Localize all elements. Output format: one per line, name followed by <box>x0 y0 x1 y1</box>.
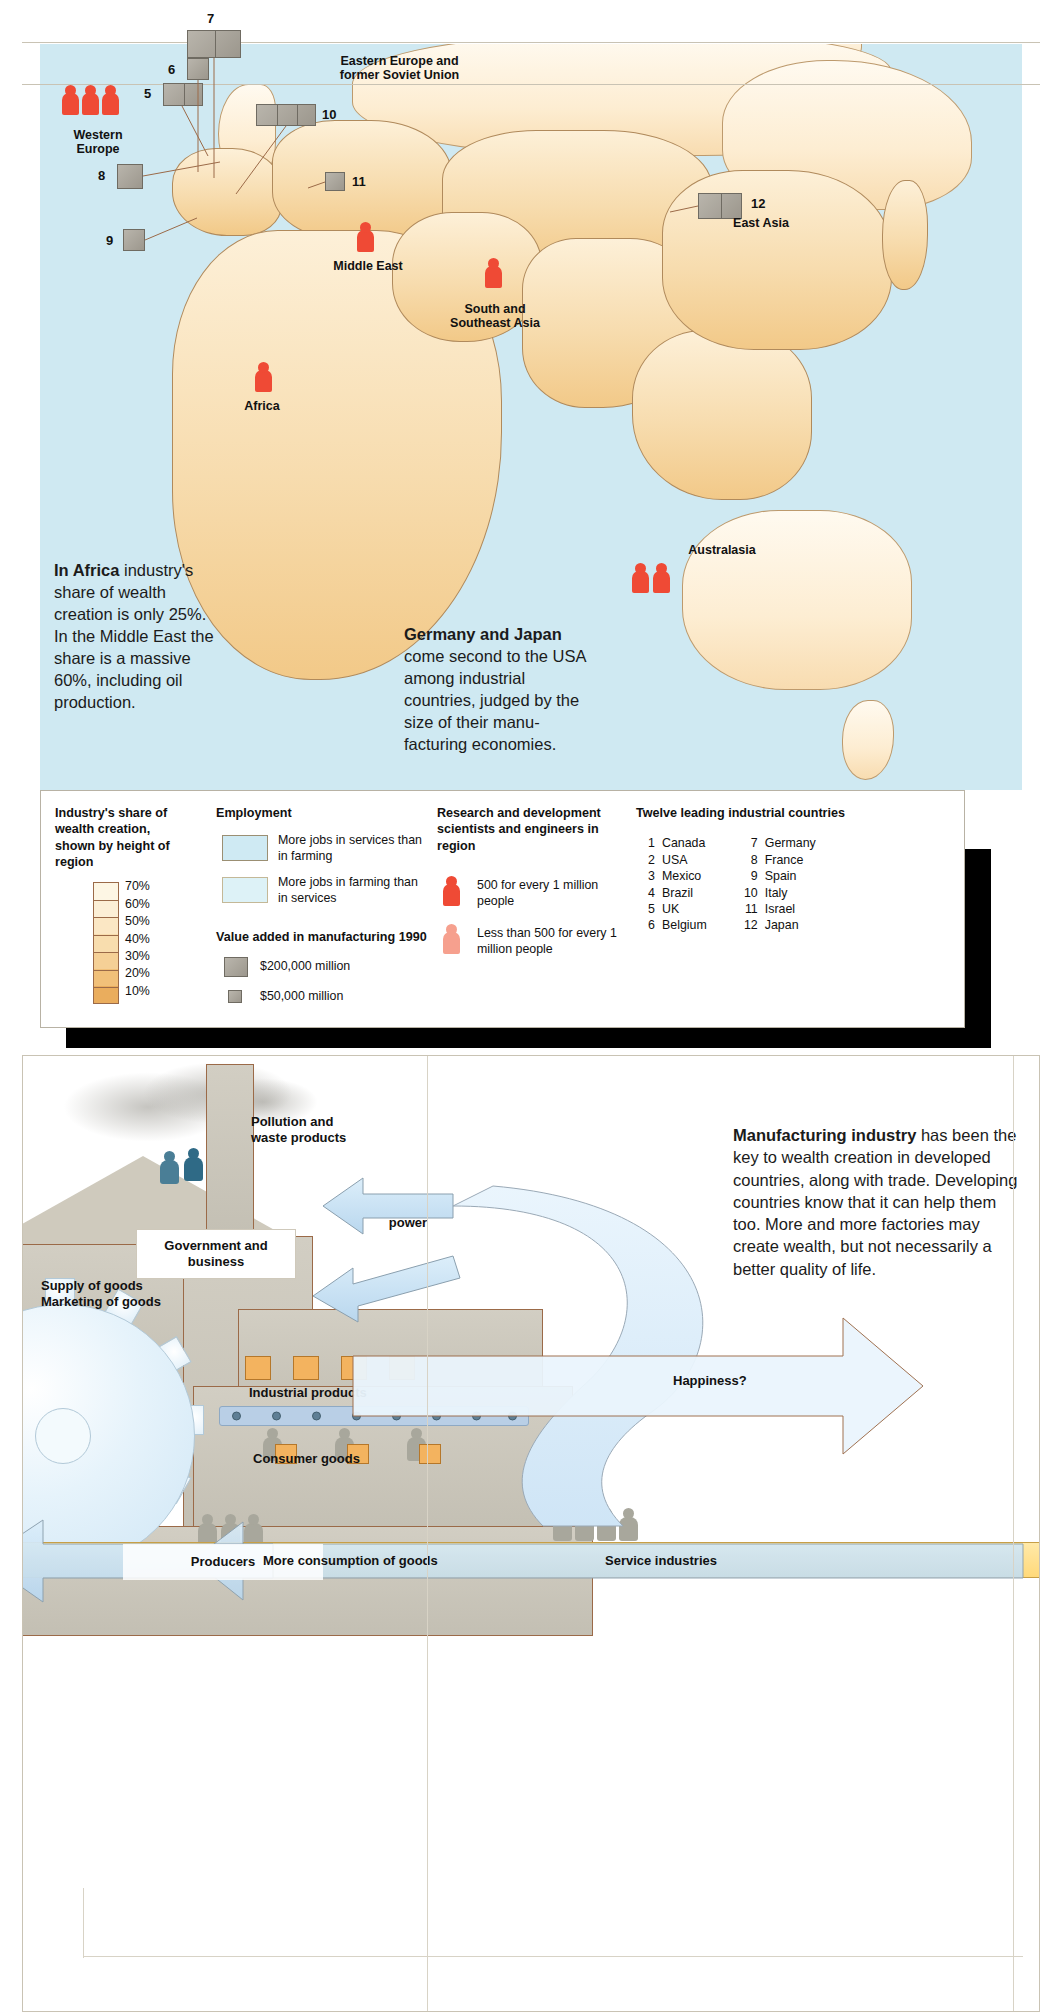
germany-japan-callout-lead: Germany and Japan <box>404 625 562 643</box>
country-name: Japan <box>765 918 799 932</box>
country-rank: 5 <box>636 901 655 917</box>
legend-countries-title: Twelve leading industrial countries <box>636 805 926 821</box>
legend-countries-column: Twelve leading industrial countries 1Can… <box>636 805 926 934</box>
person-icon-red <box>102 85 119 115</box>
panel-vertical-divider <box>427 1056 428 2011</box>
share-scale-bar <box>93 882 119 1004</box>
people-group-australasia <box>632 563 682 595</box>
legend-box: Industry's share of wealth creation, sho… <box>40 790 965 1028</box>
scale-tick: 40% <box>125 931 150 948</box>
legend-employment-item: More jobs in services than in farming <box>278 833 428 865</box>
gear-wheel <box>22 1286 213 1586</box>
marker-number-5: 5 <box>144 86 151 101</box>
manufacturing-paragraph-lead: Manufacturing industry <box>733 1126 916 1144</box>
country-rank: 1 <box>636 835 655 851</box>
country-row: 7Germany <box>739 835 816 851</box>
scale-tick: 10% <box>125 983 150 1000</box>
government-business-label: Government and business <box>136 1229 296 1279</box>
legend-value-added-title: Value added in manufacturing 1990 <box>216 929 431 945</box>
country-row: 8France <box>739 852 816 868</box>
crate-icon <box>341 1356 367 1380</box>
country-row: 6Belgium <box>636 917 707 933</box>
industrial-products-label: Industrial products <box>249 1385 439 1401</box>
panel-top-rule <box>22 42 1040 43</box>
country-name: UK <box>662 902 679 916</box>
region-label-western-europe: Western Europe <box>57 128 139 157</box>
scale-tick: 20% <box>125 965 150 982</box>
legend-employment-title: Employment <box>216 805 431 821</box>
scale-tick: 50% <box>125 913 150 930</box>
factory-chimney <box>206 1064 254 1244</box>
infographic-page: 7 6 5 10 8 11 9 12 <box>0 0 1062 2012</box>
legend-rnd-column: Research and development scientists and … <box>437 805 622 966</box>
marker-number-11: 11 <box>352 174 366 189</box>
conveyor-belt <box>219 1406 529 1426</box>
legend-value-added-item: $200,000 million <box>260 959 350 975</box>
landmass-japan <box>882 180 928 290</box>
country-rank: 6 <box>636 917 655 933</box>
countries-list-right: 7Germany 8France 9Spain 10Italy 11Israel <box>739 835 816 933</box>
country-name: Italy <box>765 886 788 900</box>
value-box-10 <box>256 104 316 126</box>
worker-icon-service <box>619 1508 638 1541</box>
country-rank: 9 <box>739 868 758 884</box>
value-box-8 <box>117 164 143 189</box>
swatch-200000-million <box>224 957 248 977</box>
region-label-south-southeast-asia: South and Southeast Asia <box>435 302 555 331</box>
manufacturing-paragraph: Manufacturing industry has been the key … <box>733 1124 1025 1280</box>
worker-icon-service <box>553 1508 572 1541</box>
legend-employment-column: Employment More jobs in services than in… <box>216 805 431 1012</box>
country-name: Brazil <box>662 886 693 900</box>
region-label-australasia: Australasia <box>667 543 777 557</box>
region-label-east-asia: East Asia <box>716 216 806 230</box>
worker-icon-service <box>575 1508 594 1541</box>
country-name: France <box>765 853 804 867</box>
country-rank: 10 <box>739 885 758 901</box>
country-rank: 8 <box>739 852 758 868</box>
africa-callout-body: industry's share of wealth creation is o… <box>54 561 214 711</box>
swatch-more-services <box>222 835 268 861</box>
germany-japan-callout: Germany and Japan come second to the USA… <box>404 624 600 756</box>
value-box-6 <box>187 58 209 80</box>
country-name: Spain <box>765 869 797 883</box>
country-name: Germany <box>765 836 816 850</box>
person-icon-red <box>632 563 649 593</box>
country-row: 5UK <box>636 901 707 917</box>
consumer-goods-label: Consumer goods <box>253 1451 423 1467</box>
person-icon-red <box>653 563 670 593</box>
country-row: 9Spain <box>739 868 816 884</box>
marker-number-9: 9 <box>106 233 113 248</box>
germany-japan-callout-body: come second to the USA among industrial … <box>404 647 586 753</box>
person-icon-red-legend <box>443 876 460 906</box>
country-row: 11Israel <box>739 901 816 917</box>
more-consumption-label: More consumption of goods <box>263 1553 493 1569</box>
worker-icon-service <box>597 1508 616 1541</box>
legend-share-column: Industry's share of wealth creation, sho… <box>55 805 185 1022</box>
africa-callout: In Africa industry's share of wealth cre… <box>54 560 214 714</box>
country-rank: 7 <box>739 835 758 851</box>
panel-right-divider <box>1013 1056 1014 2011</box>
country-rank: 4 <box>636 885 655 901</box>
worker-icon-business <box>184 1148 203 1181</box>
legend-value-added-item: $50,000 million <box>260 989 343 1005</box>
crate-icon <box>245 1356 271 1380</box>
happiness-label: Happiness? <box>673 1373 783 1389</box>
country-name: Israel <box>765 902 795 916</box>
country-row: 10Italy <box>739 885 816 901</box>
legend-rnd-item: Less than 500 for every 1 million people <box>477 926 622 958</box>
value-box-9 <box>123 229 145 251</box>
marker-number-12: 12 <box>751 196 765 211</box>
swatch-50000-million <box>228 990 242 1003</box>
crate-icon <box>389 1356 415 1380</box>
scale-tick: 70% <box>125 878 150 895</box>
worker-icon-government <box>160 1151 179 1184</box>
legend-share-title: Industry's share of wealth creation, sho… <box>55 805 185 870</box>
countries-list-left: 1Canada 2USA 3Mexico 4Brazil 5UK <box>636 835 707 933</box>
landmass-australia <box>682 510 912 690</box>
country-row: 1Canada <box>636 835 707 851</box>
value-box-5 <box>163 83 203 106</box>
country-rank: 3 <box>636 868 655 884</box>
country-rank: 11 <box>739 901 758 917</box>
share-scale-labels: 70% 60% 50% 40% 30% 20% 10% <box>125 878 150 1000</box>
country-row: 2USA <box>636 852 707 868</box>
